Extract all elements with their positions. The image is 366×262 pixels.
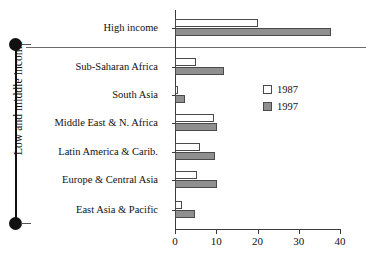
bar-rows: High incomeSub-Saharan AfricaSouth AsiaM… xyxy=(175,10,340,229)
group-axis-label: Low and middle income xyxy=(12,18,24,178)
x-tick-label: 10 xyxy=(211,235,222,247)
x-tick-mark xyxy=(258,229,259,234)
bar-1987 xyxy=(175,86,178,94)
bracket-arm-bottom xyxy=(21,223,31,224)
legend-label-1997: 1997 xyxy=(277,101,298,112)
category-label: Europe & Central Asia xyxy=(62,174,158,185)
legend-item-1997: 1997 xyxy=(263,101,298,112)
bar-1997 xyxy=(175,152,215,160)
bar-1997 xyxy=(175,28,331,36)
category-label: South Asia xyxy=(112,89,158,100)
category-label: Sub-Saharan Africa xyxy=(75,61,158,72)
bar-1987 xyxy=(175,58,196,66)
bar-1987 xyxy=(175,19,258,27)
legend-swatch-1987-icon xyxy=(263,85,272,94)
x-tick-label: 30 xyxy=(293,235,304,247)
bar-1987 xyxy=(175,201,182,209)
legend-swatch-1997-icon xyxy=(263,102,272,111)
legend-label-1987: 1987 xyxy=(277,84,298,95)
category-label: High income xyxy=(103,22,158,33)
bar-1997 xyxy=(175,180,217,188)
x-tick-mark xyxy=(299,229,300,234)
x-tick-label: 20 xyxy=(252,235,263,247)
legend: 1987 1997 xyxy=(263,84,298,118)
bar-1987 xyxy=(175,143,200,151)
category-label: Middle East & N. Africa xyxy=(54,117,158,128)
category-label: Latin America & Carib. xyxy=(58,146,158,157)
bar-1987 xyxy=(175,114,214,122)
x-tick-label: 40 xyxy=(335,235,346,247)
x-tick-mark xyxy=(340,229,341,234)
x-tick-label: 0 xyxy=(172,235,178,247)
bar-1997 xyxy=(175,123,217,131)
category-label: East Asia & Pacific xyxy=(76,204,158,215)
legend-item-1987: 1987 xyxy=(263,84,298,95)
x-axis-ticks: 010203040 xyxy=(175,229,340,249)
x-tick-mark xyxy=(216,229,217,234)
bar-1997 xyxy=(175,210,195,218)
bar-1987 xyxy=(175,171,197,179)
bar-1997 xyxy=(175,67,224,75)
x-tick-mark xyxy=(175,229,176,234)
plot-area: High incomeSub-Saharan AfricaSouth AsiaM… xyxy=(175,10,340,229)
bar-1997 xyxy=(175,95,185,103)
